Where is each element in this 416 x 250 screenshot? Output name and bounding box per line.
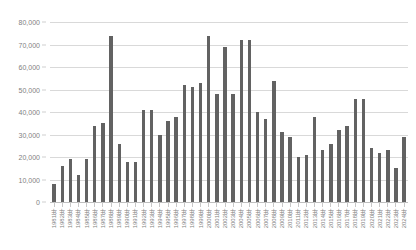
bar[interactable] <box>378 153 381 203</box>
bar[interactable] <box>199 83 202 202</box>
x-tick-slot: 2013年 <box>311 202 319 250</box>
bar[interactable] <box>191 87 194 202</box>
x-tick-slot: 1995年 <box>164 202 172 250</box>
x-tick-mark <box>54 202 55 207</box>
y-tick-mark <box>42 44 46 45</box>
bar[interactable] <box>362 99 365 203</box>
x-tick-mark <box>135 202 136 207</box>
bar[interactable] <box>134 162 137 203</box>
bar[interactable] <box>354 99 357 203</box>
x-tick-slot: 1993年 <box>148 202 156 250</box>
bar-slot <box>254 22 262 202</box>
bar[interactable] <box>280 132 283 202</box>
x-tick-label: 2011年 <box>295 209 301 228</box>
x-tick-slot: 1998年 <box>188 202 196 250</box>
bar[interactable] <box>166 121 169 202</box>
x-tick-mark <box>127 202 128 207</box>
x-tick-mark <box>111 202 112 207</box>
bar-slot <box>351 22 359 202</box>
bar[interactable] <box>272 81 275 203</box>
bar[interactable] <box>52 184 55 202</box>
x-tick-slot: 2006年 <box>254 202 262 250</box>
x-tick-label: 2024年 <box>401 209 407 228</box>
x-tick-slot: 2001年 <box>213 202 221 250</box>
x-tick-mark <box>404 202 405 207</box>
x-tick-label: 1981年 <box>51 209 57 228</box>
y-tick-mark <box>42 179 46 180</box>
x-tick-mark <box>257 202 258 207</box>
bar[interactable] <box>109 36 112 203</box>
bar-slot <box>50 22 58 202</box>
bar-slot <box>294 22 302 202</box>
bar-slot <box>384 22 392 202</box>
x-tick-mark <box>78 202 79 207</box>
x-tick-label: 2021年 <box>377 209 383 228</box>
bar-slot <box>278 22 286 202</box>
bar[interactable] <box>93 126 96 203</box>
bar[interactable] <box>305 155 308 202</box>
bar-slot <box>91 22 99 202</box>
bar[interactable] <box>69 159 72 202</box>
bar[interactable] <box>402 137 405 202</box>
bar-slot <box>311 22 319 202</box>
bar-slot <box>148 22 156 202</box>
x-tick-slot: 1996年 <box>172 202 180 250</box>
bar[interactable] <box>313 117 316 203</box>
bar[interactable] <box>118 144 121 203</box>
x-tick-label: 2014年 <box>320 209 326 228</box>
bar[interactable] <box>223 47 226 202</box>
x-tick-mark <box>371 202 372 207</box>
bar[interactable] <box>77 175 80 202</box>
bar[interactable] <box>256 112 259 202</box>
bar[interactable] <box>297 157 300 202</box>
y-tick-mark <box>42 134 46 135</box>
x-tick-label: 1995年 <box>165 209 171 228</box>
bar[interactable] <box>394 168 397 202</box>
bar[interactable] <box>61 166 64 202</box>
bar[interactable] <box>150 110 153 202</box>
bar-slot <box>262 22 270 202</box>
x-tick-slot: 1992年 <box>140 202 148 250</box>
bar[interactable] <box>231 94 234 202</box>
bar[interactable] <box>345 126 348 203</box>
bar[interactable] <box>142 110 145 202</box>
bar[interactable] <box>101 123 104 202</box>
bar[interactable] <box>264 119 267 202</box>
bar-slot <box>286 22 294 202</box>
y-tick-mark <box>42 112 46 113</box>
bar-slot <box>343 22 351 202</box>
bar-slot <box>270 22 278 202</box>
x-tick-mark <box>290 202 291 207</box>
bar[interactable] <box>158 135 161 203</box>
x-tick-label: 1990年 <box>124 209 130 228</box>
bar-slot <box>400 22 408 202</box>
bar-slot <box>237 22 245 202</box>
x-tick-label: 1991年 <box>132 209 138 228</box>
bar[interactable] <box>321 150 324 202</box>
x-tick-slot: 2010年 <box>286 202 294 250</box>
bar[interactable] <box>85 159 88 202</box>
x-tick-slot: 2017年 <box>343 202 351 250</box>
x-tick-mark <box>168 202 169 207</box>
x-tick-mark <box>249 202 250 207</box>
bar-slot <box>180 22 188 202</box>
bar-slot <box>164 22 172 202</box>
x-tick-slot: 2005年 <box>245 202 253 250</box>
bar[interactable] <box>126 162 129 203</box>
bar-slot <box>188 22 196 202</box>
bar[interactable] <box>240 40 243 202</box>
bar[interactable] <box>183 85 186 202</box>
bar[interactable] <box>207 36 210 203</box>
bar[interactable] <box>329 144 332 203</box>
bar[interactable] <box>337 130 340 202</box>
bar[interactable] <box>174 117 177 203</box>
bar-slot <box>172 22 180 202</box>
bar[interactable] <box>248 40 251 202</box>
x-tick-label: 2006年 <box>255 209 261 228</box>
bar-slot <box>107 22 115 202</box>
bar[interactable] <box>386 150 389 202</box>
bar[interactable] <box>288 137 291 202</box>
bar[interactable] <box>370 148 373 202</box>
x-tick-slot: 2007年 <box>262 202 270 250</box>
bar[interactable] <box>215 94 218 202</box>
